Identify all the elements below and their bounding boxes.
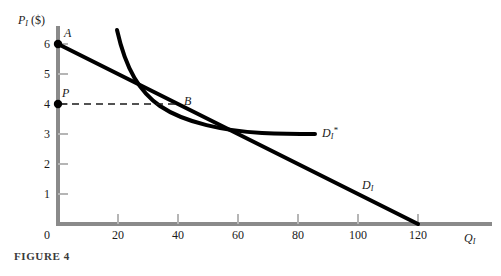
compensated-demand-curve	[117, 30, 315, 134]
y-tick-label-1: 1	[28, 187, 50, 202]
figure-container: PI ($) 6 5 4 3 2 1 0 20 40 60 80 100 120…	[0, 0, 501, 276]
point-a-label: A	[64, 26, 71, 41]
point-p-marker	[54, 100, 62, 108]
x-tick-label-100: 100	[343, 228, 373, 243]
curve-demand-main: D	[362, 178, 371, 192]
curve-demand-sub: I	[371, 184, 374, 193]
curve-star-sup: *	[333, 125, 338, 135]
point-p-label: P	[62, 86, 69, 101]
compensated-demand-curve-label: DI*	[322, 125, 338, 141]
point-b-label: B	[184, 94, 191, 109]
x-axis-title-sub: I	[473, 237, 476, 246]
x-tick-label-20: 20	[103, 228, 133, 243]
point-a-marker	[54, 40, 62, 48]
y-axis-title-unit: ($)	[31, 13, 45, 27]
x-tick-label-80: 80	[283, 228, 313, 243]
x-tick-label-60: 60	[223, 228, 253, 243]
ordinary-demand-line	[58, 44, 418, 224]
curve-star-main: D	[322, 126, 331, 140]
origin-label: 0	[28, 228, 50, 243]
y-tick-label-3: 3	[28, 127, 50, 142]
y-tick-label-5: 5	[28, 67, 50, 82]
x-axis-title: QI	[464, 231, 475, 246]
x-tick-label-120: 120	[403, 228, 433, 243]
y-tick-label-4: 4	[28, 97, 50, 112]
x-tick-label-40: 40	[163, 228, 193, 243]
figure-caption: FIGURE 4	[14, 250, 70, 262]
y-axis-title: PI ($)	[18, 13, 45, 28]
x-axis-title-main: Q	[464, 231, 473, 245]
y-tick-label-6: 6	[28, 37, 50, 52]
ordinary-demand-line-label: DI	[362, 178, 373, 193]
y-tick-label-2: 2	[28, 157, 50, 172]
